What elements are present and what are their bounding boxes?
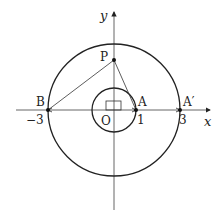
diagram-canvas: y x O P B A A′ −3 1 3: [0, 0, 221, 221]
label-A-prime: A′: [182, 95, 195, 109]
segment-PB: [48, 60, 114, 110]
segment-PA: [114, 60, 136, 110]
coordinate-diagram: y x O P B A A′ −3 1 3: [0, 0, 221, 221]
label-B: B: [36, 95, 45, 109]
point-P: [112, 58, 116, 62]
label-P: P: [100, 50, 108, 64]
origin-label: O: [101, 114, 111, 128]
right-angle-marker: [106, 101, 121, 110]
point-A-prime: [178, 108, 182, 112]
label-A: A: [137, 95, 147, 109]
point-B: [46, 108, 50, 112]
x-axis-label: x: [204, 114, 212, 129]
tick-label-3: 3: [179, 113, 187, 127]
y-axis-label: y: [99, 8, 108, 23]
tick-label-1: 1: [137, 113, 145, 127]
tick-label-neg3: −3: [26, 113, 44, 127]
